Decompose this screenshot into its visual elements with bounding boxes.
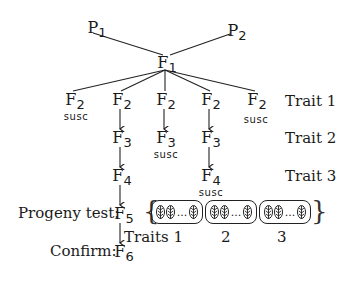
- trait-2-label: Trait 2: [285, 131, 336, 146]
- ellipsis: ...: [231, 206, 242, 219]
- ellipsis: ...: [285, 206, 296, 219]
- parent-p2: P2: [227, 23, 246, 44]
- tree-icon: [210, 205, 219, 220]
- tree-icon: [297, 205, 306, 220]
- ellipsis: ...: [177, 206, 188, 219]
- generation-f3-2: F3: [156, 130, 175, 151]
- right-brace: }: [311, 198, 328, 224]
- generation-f2-4: F2: [201, 92, 220, 113]
- generation-f4-2: F4: [201, 168, 220, 189]
- susceptible-label: susc: [64, 112, 88, 122]
- generation-f2-2: F2: [112, 92, 131, 113]
- tree-icon: [274, 205, 283, 220]
- tree-icon: [264, 205, 273, 220]
- traits-1-label: Traits 1: [124, 230, 183, 245]
- progeny-box-trait-3: ...: [259, 200, 311, 224]
- susceptible-label: susc: [199, 188, 223, 198]
- parent-p1: P1: [87, 20, 106, 41]
- generation-f4-1: F4: [112, 168, 131, 189]
- susceptible-label: susc: [244, 115, 268, 125]
- progeny-box-trait-2: ...: [205, 200, 257, 224]
- traits-2-label: 2: [221, 230, 231, 245]
- progeny-test-label: Progeny test:: [18, 206, 119, 221]
- generation-f1: F1: [157, 55, 176, 76]
- generation-f5: F5: [114, 206, 133, 227]
- tree-icon: [243, 205, 252, 220]
- progeny-box-trait-1: ...: [151, 200, 203, 224]
- generation-f2-3: F2: [156, 92, 175, 113]
- traits-3-label: 3: [277, 230, 287, 245]
- generation-f6: F6: [114, 244, 133, 265]
- tree-icon: [220, 205, 229, 220]
- generation-f2-1: F2: [65, 92, 84, 113]
- tree-icon: [166, 205, 175, 220]
- tree-icon: [156, 205, 165, 220]
- trait-3-label: Trait 3: [285, 169, 336, 184]
- generation-f2-5: F2: [247, 92, 266, 113]
- susceptible-label: susc: [154, 150, 178, 160]
- generation-f3-3: F3: [201, 130, 220, 151]
- confirm-label: Confirm:: [50, 244, 117, 259]
- tree-icon: [189, 205, 198, 220]
- trait-1-label: Trait 1: [285, 94, 336, 109]
- generation-f3-1: F3: [112, 130, 131, 151]
